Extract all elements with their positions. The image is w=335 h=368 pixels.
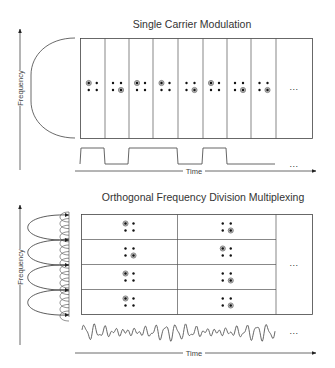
frequency-axis-label: Frequency — [16, 70, 25, 106]
ofdm-panel: Orthogonal Frequency Division Multiplexi… — [14, 191, 316, 358]
constellation-symbol — [159, 80, 171, 91]
constellation-symbol — [222, 222, 234, 233]
single-carrier-title: Single Carrier Modulation — [133, 18, 252, 30]
time-axis-label: Time — [186, 349, 202, 358]
constellation-symbol — [185, 82, 197, 93]
ofdm-title: Orthogonal Frequency Division Multiplexi… — [102, 191, 305, 203]
ofdm-grid — [82, 215, 313, 315]
constellation-symbol — [208, 80, 220, 91]
constellation-symbol — [258, 82, 270, 93]
ofdm-subcarrier-spectra — [28, 212, 69, 321]
constellation-symbol — [112, 82, 124, 93]
constellation-symbol — [234, 82, 246, 93]
constellation-symbol — [123, 296, 135, 307]
single-carrier-square-wave — [80, 148, 275, 164]
constellation-symbol — [222, 272, 234, 283]
constellation-symbol — [222, 297, 234, 308]
constellation-symbol — [220, 246, 232, 257]
frequency-axis-label: Frequency — [16, 249, 25, 285]
constellation-symbol — [124, 247, 136, 258]
signal-continuation-ellipsis: ... — [289, 326, 298, 336]
time-axis-label: Time — [186, 167, 202, 176]
grid-continuation-ellipsis: ... — [289, 82, 298, 92]
single-carrier-panel: Single Carrier Modulation Frequency ... … — [14, 18, 316, 176]
constellation-symbol — [123, 221, 135, 232]
ofdm-composite-waveform — [82, 324, 275, 341]
single-carrier-spectrum-curve — [31, 38, 75, 138]
diagram-canvas: Single Carrier Modulation Frequency ... … — [0, 0, 335, 368]
constellation-symbol — [134, 80, 146, 91]
constellation-symbol — [86, 80, 98, 91]
grid-continuation-ellipsis: ... — [289, 258, 298, 268]
constellation-symbol — [123, 271, 135, 282]
signal-continuation-ellipsis: ... — [289, 159, 298, 169]
